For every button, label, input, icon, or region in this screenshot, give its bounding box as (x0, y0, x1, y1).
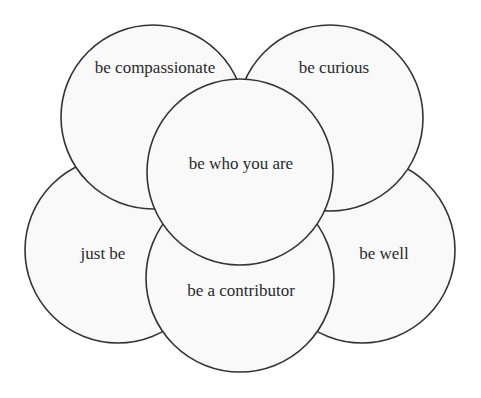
diagram-canvas: just be be well be compassionate be curi… (0, 0, 481, 398)
label-be-curious: be curious (299, 58, 369, 77)
label-be-who-you-are: be who you are (189, 154, 293, 173)
circle-be-who-you-are: be who you are (147, 79, 333, 265)
label-be-a-contributor: be a contributor (187, 281, 295, 300)
label-be-compassionate: be compassionate (95, 58, 215, 77)
label-be-well: be well (359, 244, 409, 263)
venn-diagram: just be be well be compassionate be curi… (0, 0, 481, 398)
label-just-be: just be (80, 244, 126, 263)
